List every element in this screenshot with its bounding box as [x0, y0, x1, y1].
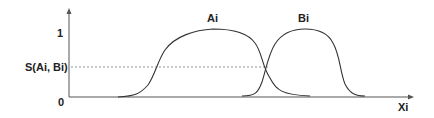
curve-ai	[118, 29, 310, 97]
x-axis-label: Xi	[398, 101, 408, 113]
y-axis-arrow-icon	[67, 8, 72, 14]
curve-label-bi: Bi	[298, 12, 309, 24]
curve-label-ai: Ai	[207, 12, 218, 24]
curve-bi	[242, 29, 365, 96]
tick-label-1: 1	[57, 27, 63, 39]
similarity-label: S(Ai, Bi)	[25, 61, 68, 73]
x-axis-arrow-icon	[408, 95, 414, 100]
tick-label-0: 0	[58, 96, 64, 108]
